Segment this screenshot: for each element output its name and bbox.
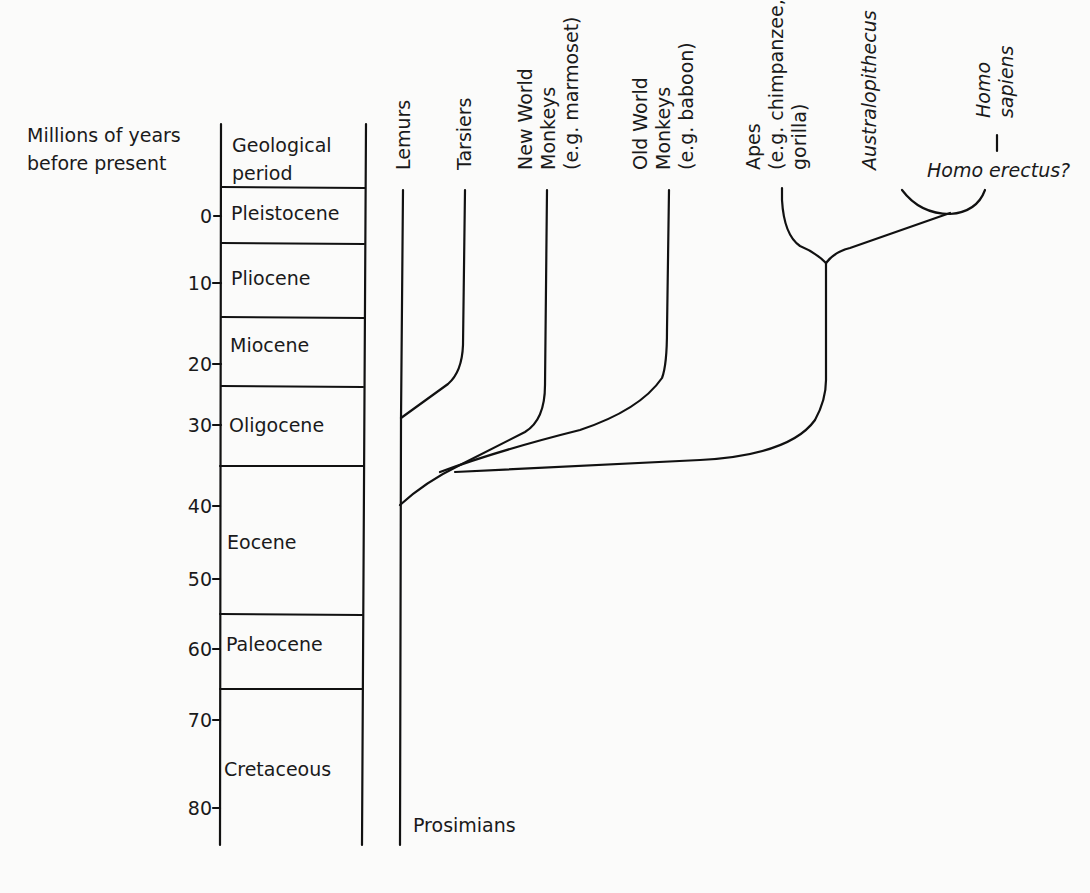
tick-label: 60 [188,638,212,660]
phylogenetic-tree [400,188,985,845]
branch-apes [782,188,826,263]
tick-label: 40 [188,495,212,517]
period-column: Geological period Pleistocene Pliocene M… [220,124,366,845]
taxon-apes: Apes (e.g. chimpanzee, gorilla) [742,0,810,170]
axis-title: Millions of years before present [27,124,181,174]
time-axis: 0 10 20 30 40 50 60 70 80 [188,205,221,819]
tick-label: 70 [188,709,212,731]
prosimian-stem [400,190,403,845]
svg-text:Apes: Apes [742,123,764,170]
period-eocene: Eocene [227,531,297,553]
svg-text:gorilla): gorilla) [788,104,810,170]
branch-tarsiers [401,190,465,418]
svg-text:(e.g. marmoset): (e.g. marmoset) [560,17,582,171]
taxon-tarsiers: Tarsiers [453,98,475,172]
tick-label: 20 [188,353,212,375]
branch-hominoids [455,263,826,472]
svg-text:New World: New World [514,68,536,170]
taxon-new-world-monkeys: New World Monkeys (e.g. marmoset) [514,17,582,171]
period-cretaceous: Cretaceous [224,758,331,780]
period-paleocene: Paleocene [226,633,323,655]
period-pleistocene: Pleistocene [231,202,340,224]
taxon-old-world-monkeys: Old World Monkeys (e.g. baboon) [629,42,697,170]
branch-old-world-monkeys [440,190,669,472]
tick-label: 30 [188,414,212,436]
prosimians-label: Prosimians [413,814,516,836]
svg-text:Homo: Homo [972,62,994,118]
tick-label: 80 [188,797,212,819]
tick-label: 10 [188,272,212,294]
homo-erectus-label: Homo erectus? [927,159,1070,181]
svg-text:(e.g. chimpanzee,: (e.g. chimpanzee, [765,0,787,170]
branch-new-world-monkeys [400,190,547,505]
period-miocene: Miocene [230,334,309,356]
period-oligocene: Oligocene [229,414,324,436]
taxon-australopithecus: Australopithecus [858,10,880,172]
svg-text:Millions of years: Millions of years [27,124,181,146]
svg-text:before present: before present [27,152,166,174]
svg-text:(e.g. baboon): (e.g. baboon) [675,42,697,170]
svg-text:sapiens: sapiens [995,45,1017,118]
taxon-labels: Lemurs Tarsiers New World Monkeys (e.g. … [392,0,1070,181]
svg-text:Lemurs: Lemurs [392,100,414,170]
svg-text:Old World: Old World [629,77,651,170]
period-header: Geological [232,134,332,156]
svg-text:Monkeys: Monkeys [652,87,674,170]
period-header: period [232,162,293,184]
period-pliocene: Pliocene [231,267,311,289]
svg-text:Australopithecus: Australopithecus [858,10,880,172]
branch-homo-erectus [902,190,985,214]
svg-text:Tarsiers: Tarsiers [453,98,475,172]
tick-label: 0 [200,205,212,227]
branch-homo-lineage [826,213,950,263]
taxon-lemurs: Lemurs [392,100,414,170]
taxon-homo-sapiens: Homo sapiens [972,45,1017,118]
phylogeny-diagram: Millions of years before present Geologi… [0,0,1090,893]
svg-text:Monkeys: Monkeys [537,87,559,170]
tick-label: 50 [188,568,212,590]
